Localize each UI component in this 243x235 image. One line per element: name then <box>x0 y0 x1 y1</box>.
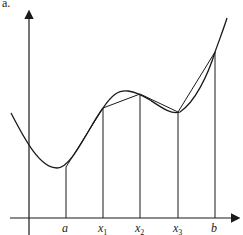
label-x3: x3 <box>173 222 182 235</box>
label-x1: x1 <box>98 222 107 235</box>
label-b: b <box>211 222 217 235</box>
label-x2: x2 <box>135 222 144 235</box>
trapezoid-diagram <box>0 0 243 235</box>
function-curve <box>11 18 227 168</box>
label-a: a <box>62 222 68 235</box>
